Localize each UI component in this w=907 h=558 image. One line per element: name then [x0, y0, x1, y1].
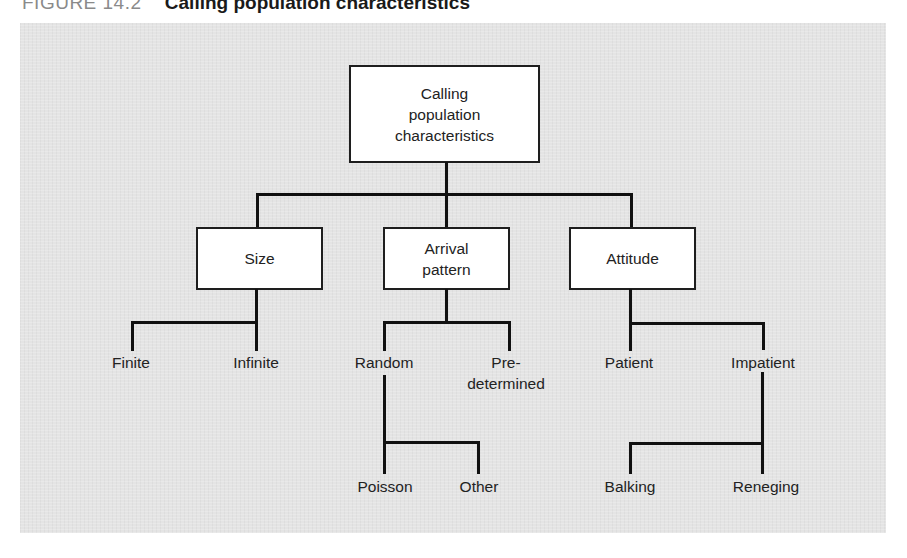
- connector: [384, 441, 480, 444]
- connector: [131, 321, 134, 351]
- connector: [256, 193, 633, 196]
- leaf-poisson: Poisson: [357, 476, 412, 497]
- attitude-node: Attitude: [569, 227, 696, 290]
- leaf-patient: Patient: [605, 352, 653, 373]
- connector: [383, 375, 386, 474]
- leaf-finite: Finite: [112, 352, 150, 373]
- leaf-balking: Balking: [605, 476, 656, 497]
- connector: [131, 321, 258, 324]
- size-label: Size: [244, 248, 274, 269]
- connector: [445, 289, 448, 323]
- leaf-other: Other: [460, 476, 499, 497]
- predetermined-line-2: determined: [467, 373, 545, 394]
- figure-number: FIGURE 14.2: [22, 0, 142, 13]
- connector: [629, 442, 632, 474]
- leaf-infinite: Infinite: [233, 352, 279, 373]
- connector: [761, 372, 764, 474]
- connector: [629, 442, 764, 445]
- connector: [477, 441, 480, 474]
- connector: [762, 322, 765, 350]
- figure-caption: Calling population characteristics: [165, 0, 470, 13]
- connector: [256, 193, 259, 228]
- connector: [630, 193, 633, 228]
- attitude-label: Attitude: [606, 248, 659, 269]
- root-line-2: population: [395, 104, 494, 125]
- connector: [630, 322, 764, 325]
- connector: [508, 321, 511, 351]
- predetermined-line-1: Pre-: [467, 352, 545, 373]
- arrival-line-2: pattern: [422, 259, 470, 280]
- connector: [629, 289, 632, 351]
- size-node: Size: [196, 227, 323, 290]
- leaf-predetermined: Pre- determined: [467, 352, 545, 394]
- connector: [383, 321, 386, 351]
- arrival-pattern-node: Arrival pattern: [383, 227, 510, 290]
- connector: [383, 321, 511, 324]
- leaf-random: Random: [355, 352, 414, 373]
- root-line-1: Calling: [395, 83, 494, 104]
- figure-title: FIGURE 14.2 Calling population character…: [22, 0, 470, 14]
- root-node: Calling population characteristics: [349, 65, 540, 163]
- connector: [255, 289, 258, 351]
- root-line-3: characteristics: [395, 125, 494, 146]
- leaf-reneging: Reneging: [733, 476, 799, 497]
- leaf-impatient: Impatient: [731, 352, 795, 373]
- arrival-line-1: Arrival: [422, 238, 470, 259]
